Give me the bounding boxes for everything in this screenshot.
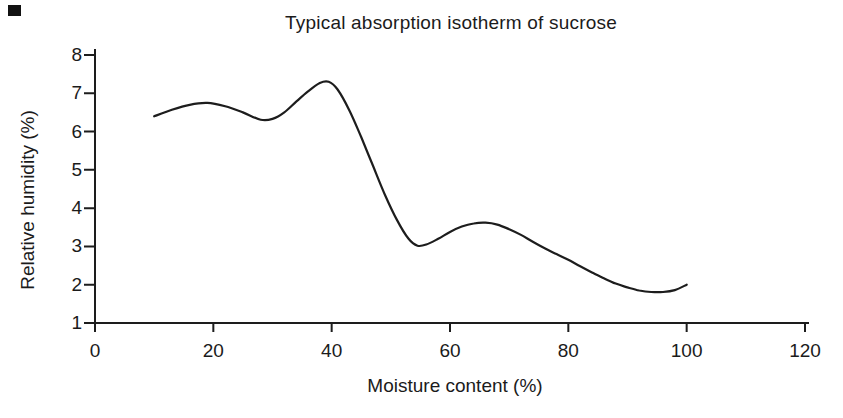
y-tick-label: 6 xyxy=(38,121,82,143)
y-tick-label: 1 xyxy=(38,312,82,334)
x-tick-label: 80 xyxy=(538,340,598,362)
y-tick-label: 2 xyxy=(38,274,82,296)
x-axis-ticks xyxy=(95,323,805,332)
y-tick-label: 5 xyxy=(38,159,82,181)
isotherm-curve xyxy=(154,81,687,292)
x-tick-label: 20 xyxy=(183,340,243,362)
x-tick-label: 120 xyxy=(775,340,835,362)
x-tick-label: 0 xyxy=(65,340,125,362)
y-axis-ticks xyxy=(84,55,95,323)
x-tick-label: 40 xyxy=(302,340,362,362)
y-tick-label: 4 xyxy=(38,197,82,219)
y-tick-label: 7 xyxy=(38,82,82,104)
axes xyxy=(95,50,808,323)
isotherm-figure: Typical absorption isotherm of sucrose R… xyxy=(0,0,843,418)
x-tick-label: 60 xyxy=(420,340,480,362)
y-tick-label: 8 xyxy=(38,44,82,66)
y-tick-label: 3 xyxy=(38,235,82,257)
x-tick-label: 100 xyxy=(657,340,717,362)
